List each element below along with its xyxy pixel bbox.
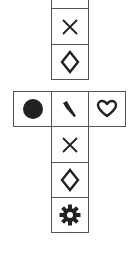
gear-icon <box>59 204 81 226</box>
circle-icon <box>22 98 44 120</box>
tile-mid-feather <box>51 91 89 127</box>
feather-icon <box>60 99 80 119</box>
tile-top-diamond <box>51 44 89 80</box>
diamond-icon <box>60 50 80 74</box>
x-icon <box>60 17 80 37</box>
tile-bottom-cross <box>51 126 89 163</box>
diamond-icon <box>60 168 80 192</box>
tile-mid-circle <box>13 91 52 127</box>
tile-bottom-diamond <box>51 162 89 198</box>
tile-mid-heart <box>88 91 126 127</box>
x-icon <box>60 135 80 155</box>
tile-top-cross <box>51 8 89 45</box>
tile-bottom-gear <box>51 197 89 233</box>
heart-icon <box>96 99 118 119</box>
